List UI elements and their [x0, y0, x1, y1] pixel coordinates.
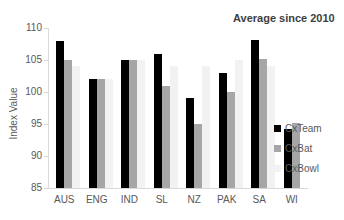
y-tick-mark	[44, 28, 48, 29]
bar-cxbat-sa	[259, 59, 267, 188]
legend-swatch	[274, 125, 281, 132]
y-axis-line	[48, 28, 49, 188]
bar-cxbowl-pak	[235, 60, 243, 188]
bar-cxbowl-nz	[202, 66, 210, 188]
x-tick-label: ENG	[81, 194, 113, 205]
legend: CxTeamCxBatCxBowl	[274, 118, 322, 178]
legend-swatch	[274, 145, 281, 152]
y-tick-mark	[44, 124, 48, 125]
legend-label: CxTeam	[285, 123, 322, 134]
x-tick-label: SL	[146, 194, 178, 205]
bar-cxbat-aus	[64, 60, 72, 188]
x-tick-label: NZ	[178, 194, 210, 205]
legend-item-cxteam: CxTeam	[274, 118, 322, 138]
bar-cxbat-eng	[97, 79, 105, 188]
bar-cxbowl-eng	[105, 79, 113, 188]
y-tick-mark	[44, 92, 48, 93]
bar-cxbat-ind	[129, 60, 137, 188]
y-tick-label: 100	[16, 86, 42, 97]
bar-cxbowl-ind	[137, 60, 145, 188]
bar-cxbat-sl	[162, 86, 170, 188]
y-tick-mark	[44, 188, 48, 189]
legend-label: CxBat	[285, 143, 312, 154]
x-tick-label: PAK	[211, 194, 243, 205]
legend-swatch	[274, 165, 281, 172]
y-tick-mark	[44, 60, 48, 61]
bar-cxteam-eng	[89, 79, 97, 188]
x-tick-label: WI	[276, 194, 308, 205]
bar-cxbowl-sl	[170, 66, 178, 188]
bar-cxteam-sa	[251, 40, 259, 188]
bar-cxteam-pak	[219, 73, 227, 188]
bar-cxbat-pak	[227, 92, 235, 188]
bar-cxbat-nz	[194, 124, 202, 188]
plot-area: 859095100105110AUSENGINDSLNZPAKSAWI	[48, 28, 308, 188]
x-tick-label: SA	[243, 194, 275, 205]
bar-cxbowl-aus	[72, 66, 80, 188]
bar-cxteam-ind	[121, 60, 129, 188]
bar-cxteam-sl	[154, 54, 162, 188]
chart-title: Average since 2010	[233, 12, 335, 24]
x-tick-label: IND	[113, 194, 145, 205]
bar-cxteam-aus	[56, 41, 64, 188]
y-tick-label: 85	[16, 182, 42, 193]
x-tick-label: AUS	[48, 194, 80, 205]
x-axis-line	[48, 188, 308, 189]
legend-item-cxbowl: CxBowl	[274, 158, 322, 178]
y-tick-label: 105	[16, 54, 42, 65]
y-tick-label: 90	[16, 150, 42, 161]
y-tick-label: 95	[16, 118, 42, 129]
bar-cxteam-nz	[186, 98, 194, 188]
y-tick-mark	[44, 156, 48, 157]
legend-label: CxBowl	[285, 163, 319, 174]
legend-item-cxbat: CxBat	[274, 138, 322, 158]
y-tick-label: 110	[16, 22, 42, 33]
